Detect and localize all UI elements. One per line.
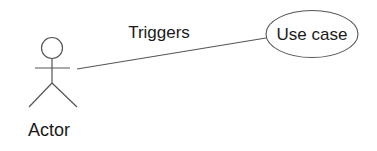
actor-right-leg [52,83,77,107]
use-case-label: Use case [277,25,348,44]
association-label: Triggers [128,23,190,42]
actor-head [42,38,63,59]
actor-label: Actor [28,120,70,140]
association-line [77,38,266,69]
actor-left-leg [29,83,52,107]
use-case-diagram: Actor Triggers Use case [0,0,377,151]
actor-figure-icon [29,38,77,108]
